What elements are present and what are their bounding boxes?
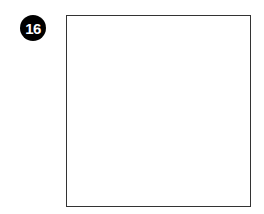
figure-number-badge: 16 — [20, 15, 46, 41]
empty-panel-box — [66, 15, 251, 207]
